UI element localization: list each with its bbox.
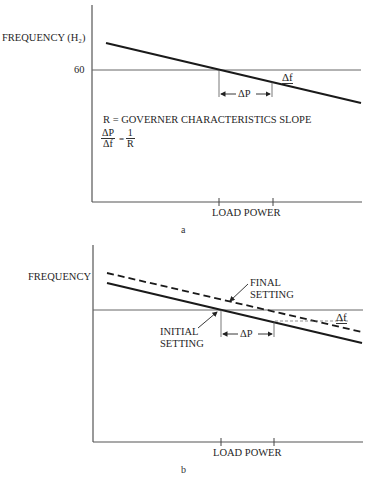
diagram-a [92,5,362,206]
initial-setting-label-line2: SETTING [160,338,204,349]
y-axis-label-a: FREQUENCY (H₂) [2,32,85,43]
governor-definition: R = GOVERNER CHARACTERISTICS SLOPE [103,114,311,125]
final-setting-leader [230,284,248,301]
formula-denominator-right: R [126,139,135,149]
delta-f-label-b: Δf [336,312,347,324]
delta-p-label-a: ΔP [238,88,251,99]
y-tick-60: 60 [74,64,85,75]
formula-denominator-left: Δf [101,139,115,149]
formula-one-over-r: 1 R [126,128,135,149]
caption-a: a [181,224,185,235]
initial-setting-leader [198,312,217,328]
initial-setting-label-line1: INITIAL [160,326,198,337]
y-axis-label-b: FREQUENCY [28,271,91,282]
final-setting-label-line1: FINAL [250,277,281,288]
formula-delta-p-over-delta-f: ΔP Δf [101,128,115,149]
diagram-canvas [0,0,370,481]
x-axis-label-a: LOAD POWER [212,207,281,218]
formula-equals: = [119,134,124,144]
final-setting-label-line2: SETTING [250,289,294,300]
caption-b: b [181,464,186,475]
delta-f-label-a: Δf [282,72,293,84]
delta-p-label-b: ΔP [240,328,253,339]
final-setting-line [107,273,362,332]
diagram-b [93,245,363,446]
x-axis-label-b: LOAD POWER [213,447,282,458]
